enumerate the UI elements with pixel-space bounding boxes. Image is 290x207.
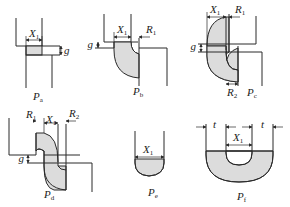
label-g: g — [19, 152, 25, 164]
panel-e: X1 Pe — [135, 131, 164, 200]
label-r1: R1 — [234, 3, 246, 17]
label-t-right: t — [261, 118, 265, 130]
shaded-region — [36, 133, 66, 190]
label-r1: R1 — [25, 108, 37, 122]
label-x1: X1 — [209, 3, 221, 17]
label-x1: X1 — [45, 113, 57, 127]
shaded-region — [26, 46, 42, 55]
caption-pa: Pa — [32, 90, 44, 104]
caption-pe: Pe — [147, 186, 158, 200]
label-x1: X1 — [142, 143, 154, 157]
shaded-region — [114, 42, 139, 78]
caption-pb: Pb — [132, 85, 144, 99]
label-g: g — [64, 44, 70, 56]
label-x1: X1 — [232, 131, 244, 145]
shaded-region — [206, 151, 273, 182]
label-x1: X1 — [116, 23, 128, 37]
label-t-left: t — [213, 118, 217, 130]
panel-d: R1 X1 R2 g Pd — [9, 107, 92, 202]
label-r1: R1 — [145, 23, 157, 37]
panel-b: X1 R1 g Pb — [88, 14, 168, 99]
label-g: g — [191, 40, 197, 52]
panel-a: X1 g Pa — [16, 18, 70, 104]
label-g: g — [88, 38, 94, 50]
panel-c: X1 R1 R2 g Pc — [191, 3, 263, 100]
diagram-canvas: X1 g Pa X1 R1 g Pb X1 R1 R2 g P — [0, 0, 290, 207]
caption-pf: Pf — [236, 190, 247, 204]
label-x1: X1 — [28, 27, 40, 41]
panel-f: t t X1 Pf — [196, 118, 283, 204]
label-r2: R2 — [68, 107, 80, 121]
caption-pc: Pc — [246, 86, 257, 100]
label-r2: R2 — [226, 86, 238, 100]
